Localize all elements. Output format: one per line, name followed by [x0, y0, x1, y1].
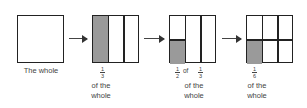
- divider: [123, 16, 125, 62]
- shaded-half-third: [170, 40, 185, 64]
- caption: of thewhole: [86, 81, 116, 101]
- arrow-1: [69, 38, 87, 39]
- divider: [170, 39, 185, 41]
- whole-square: [17, 15, 64, 63]
- divider: [262, 16, 264, 62]
- caption: of thewhole: [179, 81, 209, 101]
- divider: [247, 39, 292, 41]
- arrow-3: [222, 38, 241, 39]
- shaded-third: [93, 16, 108, 62]
- thirds-square: [92, 15, 139, 63]
- half-of-third-square: [169, 15, 216, 63]
- arrow-2: [144, 38, 164, 39]
- caption: of thewhole: [242, 81, 272, 101]
- fraction-one-third: 13: [100, 66, 105, 79]
- divider: [277, 16, 279, 62]
- of-word: of: [183, 66, 188, 76]
- shaded-sixth: [247, 40, 262, 64]
- fraction-one-half: 12: [175, 66, 180, 79]
- divider: [185, 16, 187, 62]
- divider: [108, 16, 110, 62]
- fraction-one-third-b: 13: [198, 66, 203, 79]
- label-the-whole: The whole: [10, 66, 72, 76]
- divider: [200, 16, 202, 62]
- fraction-one-sixth: 16: [252, 66, 257, 79]
- sixths-square: [246, 15, 293, 63]
